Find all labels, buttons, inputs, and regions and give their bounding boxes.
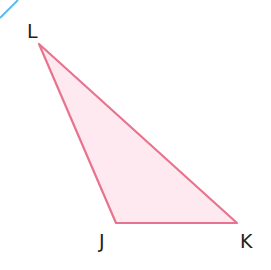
diagram-canvas: L J K [0,0,271,270]
vertex-label-j: J [98,230,105,252]
vertex-label-l: L [27,20,38,42]
vertex-label-k: K [240,230,253,252]
triangle-ljk [39,44,237,223]
triangle-figure: L J K [0,0,271,270]
corner-line [0,0,18,18]
